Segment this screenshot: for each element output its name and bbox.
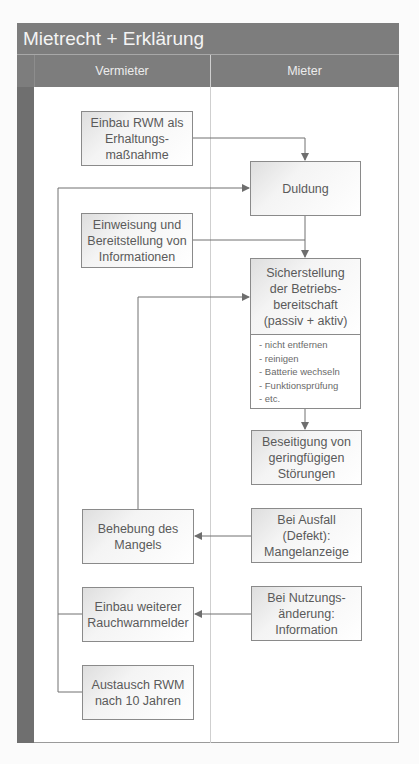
list-item: - reinigen <box>259 352 356 366</box>
list-item: - Batterie wechseln <box>259 365 356 379</box>
box-einweisung: Einweisung und Bereitstellung von Inform… <box>81 213 193 268</box>
box-label: Sicherstellung der Betriebs- bereitschaf… <box>264 265 348 329</box>
box-einbau-weiterer: Einbau weiterer Rauchwarnmelder <box>82 587 194 642</box>
box-label: Duldung <box>282 181 329 197</box>
box-nutzungsaenderung: Bei Nutzungs- änderung: Information <box>251 586 362 641</box>
box-label: Behebung des Mangels <box>98 521 179 553</box>
box-label: Bei Ausfall (Defekt): Mangelanzeige <box>264 512 349 560</box>
list-item: - etc. <box>259 392 356 406</box>
box-beseitigung: Beseitigung von geringfügigen Störungen <box>251 430 362 485</box>
box-duldung: Duldung <box>250 161 361 216</box>
box-label: Einbau weiterer Rauchwarnmelder <box>87 599 188 631</box>
sicherstellung-header: Sicherstellung der Betriebs- bereitschaf… <box>251 259 360 335</box>
box-austausch: Austausch RWM nach 10 Jahren <box>82 665 194 720</box>
list-item: - Funktionsprüfung <box>259 379 356 393</box>
box-label: Bei Nutzungs- änderung: Information <box>267 590 346 638</box>
box-behebung: Behebung des Mangels <box>82 509 194 564</box>
box-label: Beseitigung von geringfügigen Störungen <box>262 434 351 482</box>
list-item: - nicht entfernen <box>259 338 356 352</box>
sicherstellung-list: - nicht entfernen - reinigen - Batterie … <box>259 338 356 406</box>
box-label: Einweisung und Bereitstellung von Inform… <box>87 217 186 265</box>
box-label: Einbau RWM als Erhaltungs- maßnahme <box>91 115 184 163</box>
box-einbau-rwm: Einbau RWM als Erhaltungs- maßnahme <box>81 111 193 166</box>
box-ausfall: Bei Ausfall (Defekt): Mangelanzeige <box>251 508 362 563</box>
box-sicherstellung: Sicherstellung der Betriebs- bereitschaf… <box>250 258 361 409</box>
box-label: Austausch RWM nach 10 Jahren <box>92 677 185 709</box>
